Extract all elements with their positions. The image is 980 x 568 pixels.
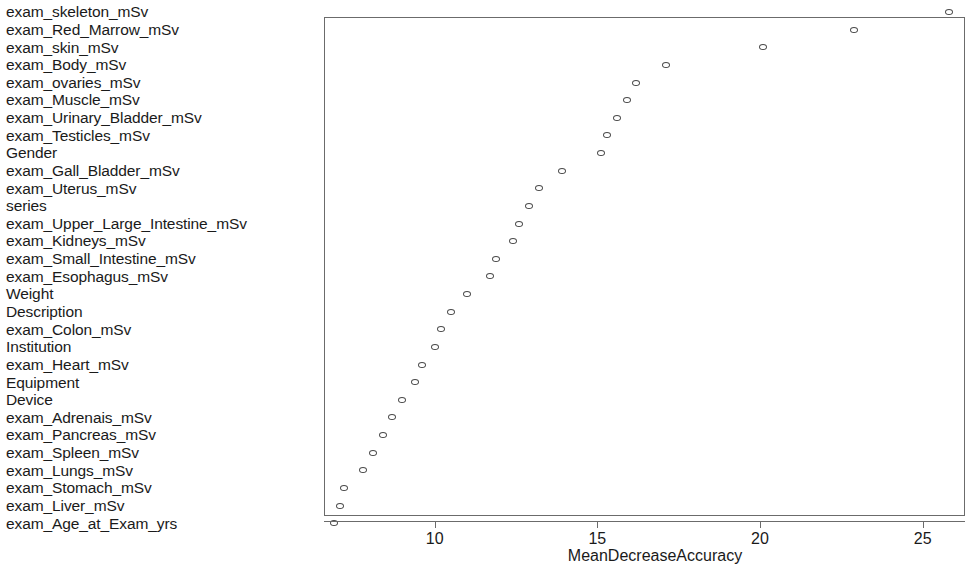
variable-label: Institution — [6, 339, 71, 355]
x-axis-tick — [435, 521, 436, 528]
data-point — [388, 414, 396, 420]
data-point — [509, 238, 517, 244]
data-point — [411, 379, 419, 385]
x-axis-title-text: MeanDecreaseAccuracy — [568, 546, 742, 565]
variable-importance-plot: exam_skeleton_mSvexam_Red_Marrow_mSvexam… — [0, 0, 980, 568]
variable-label: Weight — [6, 286, 53, 302]
variable-label: exam_Stomach_mSv — [6, 480, 152, 496]
data-point — [662, 62, 670, 68]
data-point — [336, 503, 344, 509]
variable-label: exam_Lungs_mSv — [6, 463, 133, 479]
data-point — [379, 432, 387, 438]
variable-label: exam_Colon_mSv — [6, 322, 131, 338]
x-axis-line — [324, 521, 965, 522]
data-point — [447, 309, 455, 315]
variable-label: exam_Liver_mSv — [6, 498, 124, 514]
data-point — [603, 132, 611, 138]
variable-label: exam_Gall_Bladder_mSv — [6, 163, 180, 179]
variable-label: exam_Spleen_mSv — [6, 445, 139, 461]
variable-label: exam_Esophagus_mSv — [6, 269, 168, 285]
data-point — [535, 185, 543, 191]
variable-label: exam_Small_Intestine_mSv — [6, 251, 196, 267]
variable-label: exam_Urinary_Bladder_mSv — [6, 110, 202, 126]
variable-label: exam_Pancreas_mSv — [6, 427, 156, 443]
data-point — [515, 221, 523, 227]
data-point — [431, 344, 439, 350]
data-point — [613, 115, 621, 121]
variable-label: exam_Adrenais_mSv — [6, 410, 152, 426]
data-point — [398, 397, 406, 403]
variable-label: Device — [6, 392, 53, 408]
data-point — [525, 203, 533, 209]
variable-label: exam_Kidneys_mSv — [6, 233, 146, 249]
variable-label: series — [6, 198, 47, 214]
variable-label: Description — [6, 304, 82, 320]
variable-label: exam_Body_mSv — [6, 57, 126, 73]
variable-label: exam_Muscle_mSv — [6, 92, 140, 108]
variable-label: exam_Upper_Large_Intestine_mSv — [6, 216, 247, 232]
data-point — [359, 467, 367, 473]
variable-label-column: exam_skeleton_mSvexam_Red_Marrow_mSvexam… — [0, 0, 322, 568]
x-axis-title: MeanDecreaseAccuracy — [0, 546, 980, 565]
x-axis-tick — [923, 521, 924, 528]
variable-label: Gender — [6, 145, 57, 161]
variable-label: exam_Uterus_mSv — [6, 181, 136, 197]
data-point — [486, 273, 494, 279]
data-point — [597, 150, 605, 156]
data-point — [632, 80, 640, 86]
variable-label: exam_ovaries_mSv — [6, 75, 141, 91]
data-point — [850, 27, 858, 33]
plot-area — [324, 17, 965, 516]
variable-label: exam_Age_at_Exam_yrs — [6, 516, 177, 532]
data-point — [369, 450, 377, 456]
data-point — [558, 168, 566, 174]
data-point — [759, 44, 767, 50]
variable-label: exam_Testicles_mSv — [6, 128, 150, 144]
data-point — [623, 97, 631, 103]
variable-label: exam_Heart_mSv — [6, 357, 129, 373]
data-point — [437, 326, 445, 332]
data-point — [463, 291, 471, 297]
variable-label: exam_Red_Marrow_mSv — [6, 22, 179, 38]
variable-label: exam_skeleton_mSv — [6, 4, 148, 20]
x-axis-tick — [597, 521, 598, 528]
variable-label: exam_skin_mSv — [6, 40, 118, 56]
data-point — [492, 256, 500, 262]
variable-label: Equipment — [6, 375, 79, 391]
data-point — [945, 9, 953, 15]
x-axis-tick — [760, 521, 761, 528]
data-point — [418, 362, 426, 368]
data-point — [340, 485, 348, 491]
